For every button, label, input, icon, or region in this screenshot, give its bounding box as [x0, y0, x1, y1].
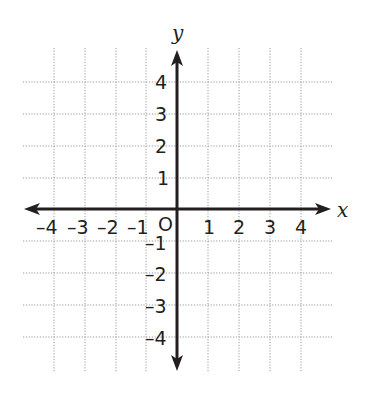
y-tick-label: –1 — [145, 232, 167, 254]
x-tick-label: –4 — [36, 216, 58, 238]
x-tick-label: 3 — [264, 216, 276, 238]
y-tick-label: 2 — [155, 135, 167, 157]
x-tick-label: –3 — [67, 216, 89, 238]
x-tick-label: –2 — [97, 216, 119, 238]
y-tick-label: –4 — [145, 327, 167, 349]
x-tick-label: 4 — [295, 216, 307, 238]
y-axis-label: y — [171, 21, 184, 45]
x-tick-label: 1 — [203, 216, 215, 238]
y-tick-label: –2 — [145, 263, 167, 285]
coordinate-plane: y x –4 –3 –2 –1 1 2 3 4 O 4 3 2 1 –1 –2 … — [0, 0, 371, 398]
y-tick-label: 3 — [155, 103, 167, 125]
y-tick-label: 1 — [157, 167, 169, 189]
x-tick-label: 2 — [233, 216, 245, 238]
y-tick-label: –3 — [145, 295, 167, 317]
x-axis-label: x — [337, 198, 348, 222]
y-tick-label: 4 — [155, 71, 167, 93]
